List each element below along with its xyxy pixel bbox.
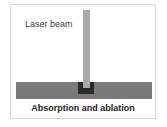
- diagram-caption: Absorption and ablation: [10, 103, 156, 113]
- laser-beam-tip: [83, 82, 90, 88]
- laser-beam-label: Laser beam: [25, 19, 73, 29]
- laser-beam: [83, 10, 90, 88]
